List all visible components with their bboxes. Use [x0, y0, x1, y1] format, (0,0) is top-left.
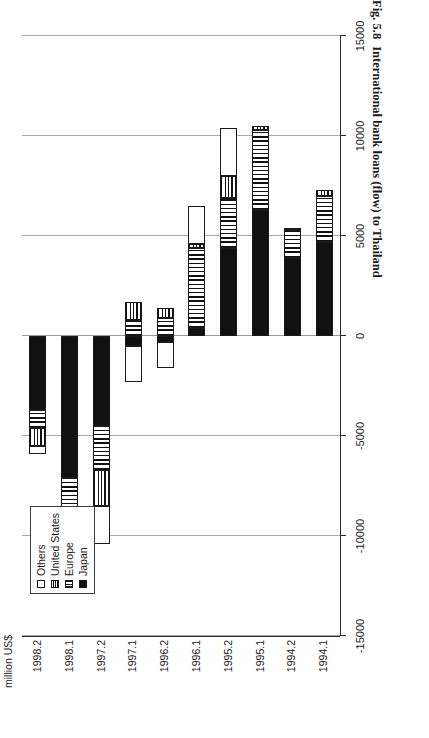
bar-segment-1996.2-others [157, 342, 174, 368]
bar-segment-1997.2-japan [93, 336, 110, 426]
tick--5000 [340, 435, 346, 436]
bar-segment-1994.1-europe [316, 196, 333, 242]
bar-segment-1995.1-europe [252, 130, 269, 210]
bar-segment-1996.1-others [188, 206, 205, 244]
bar-segment-1998.2-japan [29, 336, 46, 410]
bar-group-1995.1 [252, 36, 269, 636]
bar-segment-1995.1-japan [252, 210, 269, 336]
bar-segment-1997.1-japan [125, 336, 142, 346]
tick--10000 [340, 535, 346, 536]
bar-segment-1997.2-united-states [93, 470, 110, 506]
bar-segment-1996.2-united-states [157, 308, 174, 318]
tick-15000 [340, 35, 346, 36]
bar-segment-1994.1-japan [316, 242, 333, 336]
bar-segment-1996.2-europe [157, 318, 174, 336]
bar-segment-1997.2-others [93, 506, 110, 544]
bar-segment-1995.2-europe [220, 198, 237, 248]
category-label-1996.1: 1996.1 [190, 640, 202, 686]
category-label-1995.2: 1995.2 [222, 640, 234, 686]
bar-group-1997.2 [93, 36, 110, 636]
plot-baseline [340, 36, 341, 636]
legend-label: Europe [63, 542, 75, 576]
legend-item-europe: Europe [63, 513, 75, 588]
legend-label: Others [35, 544, 47, 576]
legend-item-japan: Japan [77, 513, 89, 588]
bar-segment-1997.2-europe [93, 426, 110, 470]
category-label-1998.1: 1998.1 [63, 640, 75, 686]
bar-segment-1994.2-united-states [284, 228, 301, 230]
legend-swatch-japan-icon [79, 580, 87, 588]
bar-segment-1994.1-united-states [316, 190, 333, 196]
bar-group-1996.2 [157, 36, 174, 636]
bar-segment-1995.1-united-states [252, 126, 269, 130]
bar-group-1996.1 [188, 36, 205, 636]
tick-0 [340, 335, 346, 336]
figure-caption: Fig. 5.8 International bank loans (flow)… [362, 0, 392, 700]
legend-item-united-states: United States [49, 513, 61, 588]
legend-swatch-us-icon [51, 580, 59, 588]
bar-segment-1995.2-others [220, 128, 237, 176]
bar-segment-1998.2-europe [29, 410, 46, 428]
caption-number: Fig. 5.8 [370, 0, 385, 39]
bar-group-1997.1 [125, 36, 142, 636]
plot-left-spine [22, 636, 340, 637]
bar-group-1994.1 [316, 36, 333, 636]
bar-segment-1997.1-others [125, 346, 142, 382]
bar-segment-1994.2-europe [284, 230, 301, 258]
category-label-1994.1: 1994.1 [317, 640, 329, 686]
rotated-chart-container: million US$ 150001000050000-5000-10000-1… [0, 0, 370, 690]
legend-item-others: Others [35, 513, 47, 588]
legend-swatch-others-icon [37, 580, 45, 588]
category-label-1994.2: 1994.2 [285, 640, 297, 686]
bar-segment-1997.1-united-states [125, 302, 142, 320]
bar-segment-1998.2-united-states [29, 428, 46, 446]
bar-group-1995.2 [220, 36, 237, 636]
bar-group-1994.2 [284, 36, 301, 636]
bar-segment-1994.2-japan [284, 258, 301, 336]
legend: OthersUnited StatesEuropeJapan [30, 506, 95, 594]
tick--15000 [340, 635, 346, 636]
bar-segment-1997.1-europe [125, 320, 142, 336]
category-label-1998.2: 1998.2 [31, 640, 43, 686]
bar-segment-1996.1-japan [188, 328, 205, 336]
bar-segment-1995.2-japan [220, 248, 237, 336]
legend-label: Japan [77, 547, 89, 576]
bar-segment-1995.2-united-states [220, 176, 237, 198]
tick-5000 [340, 235, 346, 236]
category-label-1996.2: 1996.2 [158, 640, 170, 686]
caption-text: International bank loans (flow) to Thail… [370, 46, 385, 277]
tick-10000 [340, 135, 346, 136]
bar-segment-1998.2-others [29, 446, 46, 454]
category-label-1995.1: 1995.1 [254, 640, 266, 686]
legend-swatch-europe-icon [65, 580, 73, 588]
value-axis-title: million US$ [2, 635, 14, 688]
figure-5-8: million US$ 150001000050000-5000-10000-1… [0, 0, 429, 738]
category-label-1997.1: 1997.1 [126, 640, 138, 686]
legend-label: United States [49, 513, 61, 576]
bar-segment-1996.1-united-states [188, 244, 205, 248]
bar-segment-1998.1-japan [61, 336, 78, 478]
bar-segment-1996.1-europe [188, 248, 205, 328]
category-label-1997.2: 1997.2 [95, 640, 107, 686]
